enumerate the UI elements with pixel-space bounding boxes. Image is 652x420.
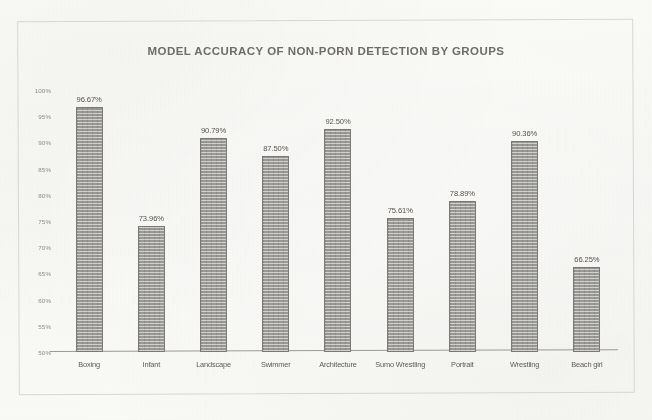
bar-value-label: 66.25% [574,255,599,264]
bar-slot: 96.67% [58,90,120,352]
y-axis-tick-label: 100% [35,87,51,94]
y-axis-tick-label: 70% [38,244,51,251]
x-axis-category-label: Wrestling [494,360,556,369]
bar-value-label: 78.89% [450,189,475,198]
bar[interactable]: 92.50% [324,129,351,352]
bar[interactable]: 73.96% [138,226,165,352]
x-axis-labels: BoxingInfantLandscapeSwimmerArchitecture… [58,360,618,369]
y-axis-tick-label: 65% [38,270,51,277]
x-axis-category-label: Swimmer [245,360,307,369]
bar-series: 96.67%73.96%90.79%87.50%92.50%75.61%78.8… [58,90,618,352]
bar-slot: 73.96% [120,90,182,352]
bar[interactable]: 96.67% [76,107,103,352]
x-axis-category-label: Sumo Wrestling [369,360,431,369]
bar[interactable]: 90.79% [200,138,227,352]
x-axis-category-label: Boxing [58,360,120,369]
x-axis-category-label: Infant [120,360,182,369]
chart-title: MODEL ACCURACY OF NON-PORN DETECTION BY … [0,45,652,57]
bar-slot: 90.79% [182,90,244,352]
bar-value-label: 90.36% [512,129,537,138]
bar-value-label: 73.96% [139,214,164,223]
x-axis-category-label: Beach girl [556,360,618,369]
bar-value-label: 96.67% [77,95,102,104]
bar-value-label: 75.61% [388,206,413,215]
bar[interactable]: 75.61% [387,218,414,352]
bar-slot: 75.61% [369,90,431,352]
x-axis-category-label: Architecture [307,360,369,369]
bar-slot: 78.89% [431,90,493,352]
y-axis-tick-label: 60% [38,296,51,303]
bar-value-label: 92.50% [325,117,350,126]
x-axis-category-label: Landscape [182,360,244,369]
bar-value-label: 87.50% [263,144,288,153]
y-axis-tick-label: 95% [38,113,51,120]
bar-slot: 66.25% [556,90,618,352]
x-axis-category-label: Portrait [431,360,493,369]
bar-value-label: 90.79% [201,126,226,135]
bar-slot: 87.50% [245,90,307,352]
plot-area: 100%95%90%85%80%75%70%65%60%55%50% 96.67… [58,90,618,352]
y-axis-tick-label: 55% [38,322,51,329]
bar-slot: 92.50% [307,90,369,352]
y-axis-tick-label: 75% [38,218,51,225]
bar[interactable]: 87.50% [262,156,289,353]
y-axis-tick-label: 85% [38,165,51,172]
y-axis-tick-label: 80% [38,191,51,198]
bar[interactable]: 66.25% [573,267,600,352]
bar[interactable]: 90.36% [511,141,538,352]
bar-chart-figure: MODEL ACCURACY OF NON-PORN DETECTION BY … [0,0,652,420]
bar-slot: 90.36% [494,90,556,352]
y-axis-tick-label: 90% [38,139,51,146]
bar[interactable]: 78.89% [449,201,476,352]
